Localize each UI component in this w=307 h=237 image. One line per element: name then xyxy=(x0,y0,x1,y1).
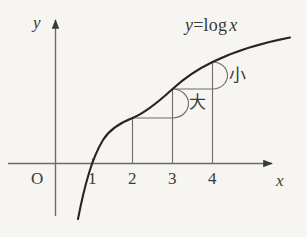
x-tick-label-3: 3 xyxy=(168,170,177,187)
x-tick-label-2: 2 xyxy=(128,170,137,187)
x-axis-label: x xyxy=(276,172,284,189)
x-tick-label-4: 4 xyxy=(208,170,217,187)
equation-function: log xyxy=(204,15,228,35)
y-axis-label: y xyxy=(33,14,41,31)
curve-equation-label: y=logx xyxy=(185,16,237,34)
graph-canvas xyxy=(0,0,307,237)
origin-label: O xyxy=(31,170,43,187)
small-annotation-label: 小 xyxy=(229,67,246,84)
equation-argument: x xyxy=(229,15,237,35)
equation-relation: = xyxy=(193,15,203,35)
equation-lhs: y xyxy=(185,15,193,35)
large-annotation-label: 大 xyxy=(189,94,206,111)
log-curve xyxy=(78,38,290,220)
logarithm-graph-figure: y x O 1 2 3 4 y=logx 大 小 xyxy=(0,0,307,237)
large-increment-arc xyxy=(173,89,189,118)
small-increment-arc xyxy=(213,62,228,89)
x-tick-label-1: 1 xyxy=(88,170,97,187)
